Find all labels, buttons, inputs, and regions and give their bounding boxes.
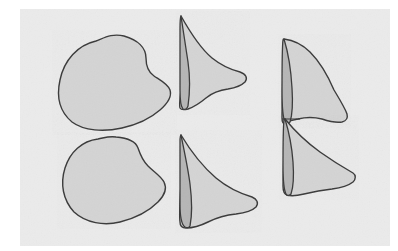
figure-panel [0, 0, 398, 251]
specimen-outline-plate [0, 0, 398, 251]
figure-root [0, 0, 398, 251]
